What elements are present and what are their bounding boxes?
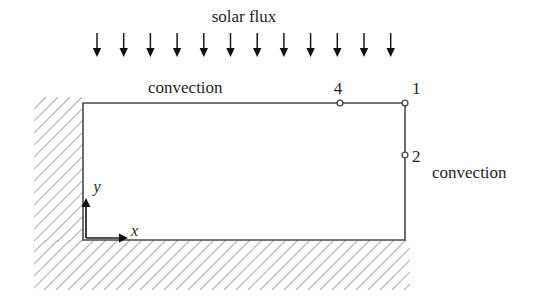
solar-flux-arrow-group	[93, 33, 395, 57]
hatch-line	[0, 97, 46, 242]
flux-arrowhead	[253, 48, 261, 57]
hatch-line	[116, 240, 166, 290]
y-axis-label: y	[91, 178, 101, 196]
node-4-marker[interactable]	[337, 100, 343, 106]
hatch-line	[392, 240, 442, 290]
hatch-line	[380, 240, 430, 290]
hatch-line	[356, 240, 406, 290]
hatch-line	[56, 240, 106, 290]
hatch-line	[69, 97, 214, 242]
flux-arrowhead	[333, 48, 341, 57]
hatch-line	[0, 97, 130, 242]
hatch-line	[284, 240, 334, 290]
hatch-line	[201, 97, 346, 242]
hatch-line	[308, 240, 358, 290]
hatch-line	[21, 97, 166, 242]
hatch-line	[0, 240, 34, 290]
hatch-line	[93, 97, 238, 242]
flux-arrowhead	[306, 48, 314, 57]
hatch-line	[368, 240, 418, 290]
solar-flux-title: solar flux	[212, 7, 277, 26]
hatch-line	[117, 97, 262, 242]
hatch-line	[189, 97, 334, 242]
x-axis-label: x	[130, 222, 138, 239]
hatch-line	[128, 240, 178, 290]
hatch-line	[0, 97, 106, 242]
hatch-line	[141, 97, 286, 242]
hatch-line	[320, 240, 370, 290]
hatch-line	[153, 97, 298, 242]
flux-arrowhead	[93, 48, 101, 57]
hatch-line	[44, 240, 94, 290]
solar-flux-plate-diagram: solar flux convection convection x y 412	[0, 0, 555, 307]
bottom-wall-hatching	[0, 240, 502, 290]
hatch-line	[332, 240, 382, 290]
hatch-line	[200, 240, 250, 290]
node-marker-group	[337, 100, 408, 158]
node-2-marker[interactable]	[402, 152, 408, 158]
hatch-line	[105, 97, 250, 242]
hatch-line	[212, 240, 262, 290]
hatch-line	[404, 240, 454, 290]
flux-arrowhead	[226, 48, 234, 57]
hatch-line	[152, 240, 202, 290]
hatch-line	[224, 240, 274, 290]
hatch-line	[452, 240, 502, 290]
hatch-line	[213, 97, 358, 242]
hatch-line	[68, 240, 118, 290]
x-axis-arrowhead	[119, 234, 128, 243]
hatch-line	[440, 240, 490, 290]
hatch-line	[0, 97, 58, 242]
hatch-line	[416, 240, 466, 290]
hatch-line	[8, 240, 58, 290]
hatch-line	[0, 97, 118, 242]
flux-arrowhead	[173, 48, 181, 57]
hatch-line	[80, 240, 130, 290]
hatch-line	[57, 97, 202, 242]
hatch-line	[344, 240, 394, 290]
hatch-line	[81, 97, 226, 242]
hatch-line	[33, 97, 178, 242]
node-2-label: 2	[412, 147, 421, 166]
hatch-line	[45, 97, 190, 242]
hatch-line	[92, 240, 142, 290]
plate-outline	[83, 103, 405, 240]
diagram-canvas: solar flux convection convection x y 412	[0, 0, 555, 307]
hatch-line	[0, 97, 94, 242]
coordinate-axes	[82, 198, 128, 242]
hatch-line	[225, 97, 370, 242]
top-convection-label: convection	[148, 78, 223, 97]
hatch-line	[129, 97, 274, 242]
node-1-label: 1	[412, 79, 421, 98]
hatch-line	[177, 97, 322, 242]
node-1-marker[interactable]	[402, 100, 408, 106]
flux-arrowhead	[280, 48, 288, 57]
flux-arrowhead	[387, 48, 395, 57]
flux-arrowhead	[146, 48, 154, 57]
hatch-line	[248, 240, 298, 290]
hatch-line	[140, 240, 190, 290]
hatch-line	[236, 240, 286, 290]
hatch-line	[20, 240, 70, 290]
flux-arrowhead	[120, 48, 128, 57]
hatch-line	[0, 97, 142, 242]
hatch-line	[296, 240, 346, 290]
flux-arrowhead	[360, 48, 368, 57]
hatch-line	[9, 97, 154, 242]
right-convection-label: convection	[432, 163, 507, 182]
hatch-line	[0, 97, 34, 242]
hatch-line	[32, 240, 82, 290]
node-4-label: 4	[334, 79, 343, 98]
hatch-line	[272, 240, 322, 290]
left-wall-hatching	[0, 97, 370, 242]
hatch-line	[260, 240, 310, 290]
hatch-line	[164, 240, 214, 290]
hatch-line	[165, 97, 310, 242]
hatch-line	[188, 240, 238, 290]
hatch-line	[176, 240, 226, 290]
hatch-line	[104, 240, 154, 290]
hatch-line	[428, 240, 478, 290]
flux-arrowhead	[200, 48, 208, 57]
